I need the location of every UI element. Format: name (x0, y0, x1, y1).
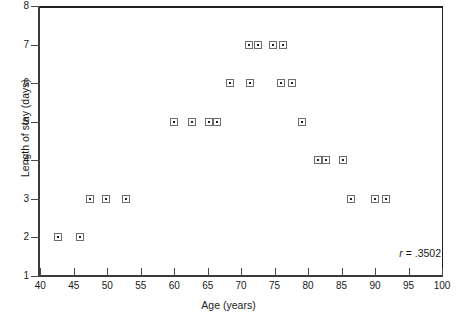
y-axis-label: Length of stay (days) (19, 48, 31, 208)
x-tick-95 (409, 268, 410, 276)
y-tick-label-2: 2 (13, 232, 29, 242)
x-tick-45 (74, 268, 75, 276)
data-point (76, 233, 84, 241)
data-point (347, 195, 355, 203)
y-tick-7 (31, 45, 40, 46)
data-point (102, 195, 110, 203)
scatter-plot-figure: 12345678 404550556065707580859095100 Age… (0, 0, 457, 320)
x-tick-55 (141, 268, 142, 276)
y-tick-3 (31, 199, 40, 200)
data-point (314, 156, 322, 164)
data-point (213, 118, 221, 126)
data-point (279, 41, 287, 49)
y-tick-2 (31, 237, 40, 238)
x-tick-label-90: 90 (360, 281, 390, 291)
x-tick-label-75: 75 (260, 281, 290, 291)
data-point (245, 41, 253, 49)
correlation-annotation: r = .3502 (399, 247, 441, 259)
x-tick-label-40: 40 (25, 281, 55, 291)
y-tick-label-1: 1 (13, 271, 29, 281)
plot-area (39, 6, 443, 276)
data-point (277, 79, 285, 87)
x-axis-label: Age (years) (0, 299, 457, 311)
x-tick-65 (208, 268, 209, 276)
data-point (288, 79, 296, 87)
x-tick-label-60: 60 (159, 281, 189, 291)
x-tick-70 (241, 268, 242, 276)
data-point (339, 156, 347, 164)
x-tick-label-55: 55 (126, 281, 156, 291)
x-tick-80 (308, 268, 309, 276)
data-point (371, 195, 379, 203)
x-tick-label-80: 80 (293, 281, 323, 291)
y-tick-5 (31, 122, 40, 123)
y-tick-8 (31, 6, 40, 7)
data-point (205, 118, 213, 126)
y-tick-label-8: 8 (13, 1, 29, 11)
data-point (226, 79, 234, 87)
data-point (86, 195, 94, 203)
x-tick-label-50: 50 (92, 281, 122, 291)
correlation-equals: = (406, 247, 412, 259)
data-point (188, 118, 196, 126)
data-point (254, 41, 262, 49)
y-tick-1 (31, 276, 40, 277)
data-point (54, 233, 62, 241)
correlation-value: .3502 (415, 247, 441, 259)
data-point (322, 156, 330, 164)
data-point (269, 41, 277, 49)
y-tick-4 (31, 160, 40, 161)
x-tick-100 (442, 268, 443, 276)
x-tick-90 (375, 268, 376, 276)
data-point (246, 79, 254, 87)
x-tick-75 (275, 268, 276, 276)
data-point (170, 118, 178, 126)
x-tick-85 (342, 268, 343, 276)
y-tick-6 (31, 83, 40, 84)
data-point (298, 118, 306, 126)
x-tick-label-85: 85 (327, 281, 357, 291)
x-tick-label-65: 65 (193, 281, 223, 291)
x-tick-60 (174, 268, 175, 276)
x-tick-label-45: 45 (59, 281, 89, 291)
x-tick-label-70: 70 (226, 281, 256, 291)
x-tick-label-95: 95 (394, 281, 424, 291)
x-tick-label-100: 100 (427, 281, 457, 291)
data-point (122, 195, 130, 203)
x-tick-50 (107, 268, 108, 276)
correlation-symbol: r (399, 247, 403, 259)
data-point (382, 195, 390, 203)
x-tick-40 (40, 268, 41, 276)
